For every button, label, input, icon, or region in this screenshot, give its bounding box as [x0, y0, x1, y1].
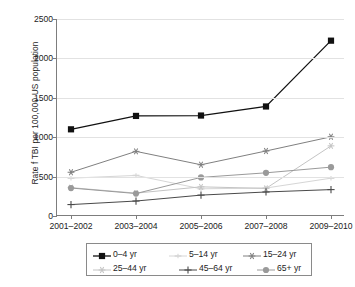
legend-row-1: 0–4 yr 5–14 yr 15–24 yr	[92, 247, 306, 261]
y-axis-tick-label: 2500	[1, 14, 53, 24]
x-axis-tick-mark	[71, 215, 72, 219]
gridline	[57, 177, 344, 178]
y-axis-tick-mark	[53, 19, 57, 20]
legend-label: 25–44 yr	[113, 263, 146, 273]
y-axis-tick-label: 500	[1, 172, 53, 182]
x-axis-tick-label: 2001–2002	[49, 221, 92, 231]
y-axis-tick-mark	[53, 177, 57, 178]
x-axis-tick-mark	[266, 215, 267, 219]
y-axis-tick-mark	[53, 98, 57, 99]
legend-label: 5–14 yr	[189, 249, 218, 259]
tbi-rate-line-chart: Rate f TBI per 100,000 US population 050…	[0, 0, 355, 287]
legend-item-15-24-yr[interactable]: 15–24 yr	[242, 248, 296, 260]
y-axis-tick-mark	[53, 137, 57, 138]
gridline	[57, 58, 344, 59]
legend-label: 0–4 yr	[113, 249, 137, 259]
series-layer	[57, 19, 345, 216]
series-15-24-yr	[68, 134, 335, 175]
x-axis-tick-mark	[201, 215, 202, 219]
x-axis-tick-label: 2005–2006	[179, 221, 222, 231]
legend-item-25-44-yr[interactable]: 25–44 yr	[92, 262, 178, 274]
legend-item-45-64-yr[interactable]: 45–64 yr	[178, 262, 256, 274]
legend-item-0-4-yr[interactable]: 0–4 yr	[92, 248, 168, 260]
y-axis-tick-mark	[53, 216, 57, 217]
y-axis-tick-label: 0	[1, 211, 53, 221]
x-axis-tick-mark	[331, 215, 332, 219]
y-axis-tick-mark	[53, 58, 57, 59]
plot-area: 050010001500200025002001–20022003–200420…	[56, 19, 344, 216]
legend-item-5-14-yr[interactable]: 5–14 yr	[168, 248, 242, 260]
legend-marker-filled-square-icon	[92, 248, 112, 260]
series-0-4-yr	[68, 38, 334, 133]
legend-label: 15–24 yr	[263, 249, 296, 259]
gridline	[57, 98, 344, 99]
legend-marker-filled-circle-icon	[256, 262, 276, 274]
legend-marker-plus-icon	[178, 262, 198, 274]
legend-row-2: 25–44 yr 45–64 yr 65+ yr	[92, 261, 306, 275]
legend-marker-light-dash-icon	[168, 248, 188, 260]
x-axis-tick-label: 2009–2010	[309, 221, 352, 231]
x-axis-tick-label: 2007–2008	[244, 221, 287, 231]
y-axis-tick-label: 1000	[1, 132, 53, 142]
legend-marker-light-star-icon	[92, 262, 112, 274]
gridline	[57, 19, 344, 20]
legend-label: 45–64 yr	[199, 263, 232, 273]
series-line	[71, 137, 331, 172]
x-axis-tick-mark	[136, 215, 137, 219]
legend-marker-asterisk-icon	[242, 248, 262, 260]
y-axis-tick-label: 2000	[1, 53, 53, 63]
x-axis-tick-label: 2003–2004	[114, 221, 157, 231]
chart-legend: 0–4 yr 5–14 yr 15–24 yr 25–44 yr 45–64 y…	[86, 243, 312, 276]
legend-label: 65+ yr	[277, 263, 301, 273]
gridline	[57, 137, 344, 138]
legend-item-65-plus-yr[interactable]: 65+ yr	[256, 262, 301, 274]
y-axis-tick-label: 1500	[1, 93, 53, 103]
